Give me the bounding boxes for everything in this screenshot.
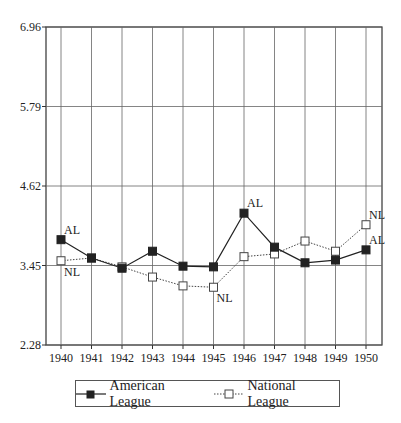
annotation-label: NL — [369, 208, 385, 222]
annotation-label: AL — [247, 196, 263, 210]
annotation-label: NL — [217, 291, 233, 305]
y-tick-label: 6.96 — [20, 20, 41, 34]
nl-data-point — [332, 247, 340, 255]
x-tick-label: 1942 — [110, 351, 134, 365]
annotation-label: AL — [369, 233, 385, 247]
x-tick-label: 1949 — [324, 351, 348, 365]
nl-data-point — [179, 282, 187, 290]
x-tick-label: 1940 — [49, 351, 73, 365]
annotation-label: NL — [64, 265, 80, 279]
legend-label: American League — [110, 378, 208, 410]
annotation-label: AL — [64, 223, 80, 237]
nl-data-point — [149, 273, 157, 281]
x-axis-ticks: 1940194119421943194419451946194719481949… — [49, 351, 378, 365]
al-data-point — [210, 263, 218, 271]
al-data-point — [240, 209, 248, 217]
y-axis-ticks: 2.283.454.625.796.96 — [20, 20, 41, 352]
al-data-point — [362, 246, 370, 254]
x-tick-label: 1945 — [202, 351, 226, 365]
x-tick-label: 1950 — [354, 351, 378, 365]
open-square-marker-icon — [214, 388, 244, 400]
legend-label: National League — [247, 378, 339, 410]
y-tick-label: 3.45 — [20, 259, 41, 273]
al-data-point — [332, 256, 340, 264]
x-tick-label: 1948 — [293, 351, 317, 365]
al-data-point — [271, 243, 279, 251]
grid — [42, 27, 382, 349]
al-data-point — [57, 236, 65, 244]
filled-square-marker-icon — [76, 388, 106, 400]
nl-data-point — [240, 253, 248, 261]
y-tick-label: 4.62 — [20, 179, 41, 193]
al-data-point — [118, 264, 126, 272]
nl-data-point — [210, 283, 218, 291]
x-tick-label: 1947 — [263, 351, 287, 365]
y-tick-label: 5.79 — [20, 100, 41, 114]
al-data-point — [88, 254, 96, 262]
al-data-point — [301, 259, 309, 267]
legend: American League National League — [75, 380, 340, 407]
x-tick-label: 1946 — [232, 351, 256, 365]
y-tick-label: 2.28 — [20, 338, 41, 352]
nl-data-point — [362, 221, 370, 229]
legend-item-national-league: National League — [214, 378, 339, 410]
al-data-point — [179, 262, 187, 270]
nl-data-point — [57, 257, 65, 265]
x-tick-label: 1941 — [80, 351, 104, 365]
nl-data-point — [301, 237, 309, 245]
x-tick-label: 1943 — [141, 351, 165, 365]
legend-item-american-league: American League — [76, 378, 208, 410]
al-data-point — [149, 247, 157, 255]
x-tick-label: 1944 — [171, 351, 195, 365]
line-chart: 2.283.454.625.796.96 1940194119421943194… — [0, 0, 401, 380]
